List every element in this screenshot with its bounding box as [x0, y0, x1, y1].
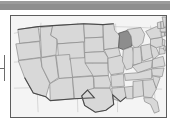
left-edge-tick	[0, 68, 5, 69]
state-OK[interactable]	[93, 76, 111, 89]
state-NC[interactable]	[151, 68, 164, 77]
state-DE[interactable]	[164, 46, 166, 51]
state-OR[interactable]	[16, 41, 41, 60]
state-AL[interactable]	[133, 80, 144, 97]
map-frame[interactable]	[10, 15, 167, 118]
state-ND[interactable]	[84, 24, 103, 38]
us-map[interactable]	[11, 16, 166, 117]
state-NJ[interactable]	[162, 39, 165, 46]
state-CT[interactable]	[161, 32, 164, 36]
state-RI[interactable]	[165, 32, 166, 35]
toolbar-highlight	[0, 1, 170, 4]
state-AR[interactable]	[111, 74, 125, 87]
screenshot-root: United States Wisconsin	[0, 0, 174, 134]
state-IN[interactable]	[133, 47, 142, 65]
state-NE[interactable]	[85, 52, 108, 64]
state-SD[interactable]	[85, 37, 104, 52]
